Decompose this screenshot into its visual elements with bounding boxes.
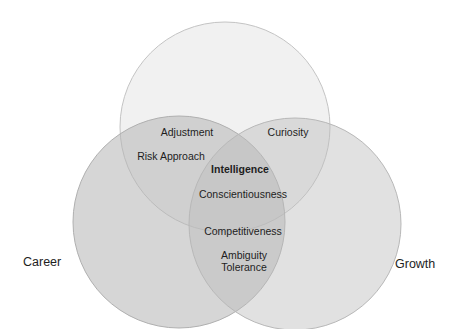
label-ambiguity: Ambiguity: [221, 249, 267, 261]
label-curiosity: Curiosity: [268, 126, 309, 138]
label-intelligence: Intelligence: [211, 163, 269, 175]
label-tolerance: Tolerance: [221, 261, 267, 273]
label-adjustment: Adjustment: [161, 126, 214, 138]
set-label-career: Career: [23, 255, 61, 269]
label-risk-approach: Risk Approach: [137, 150, 205, 162]
label-competitiveness: Competitiveness: [204, 225, 282, 237]
set-label-growth: Growth: [395, 257, 435, 271]
label-conscientiousness: Conscientiousness: [199, 188, 287, 200]
circle-growth: [189, 118, 401, 329]
